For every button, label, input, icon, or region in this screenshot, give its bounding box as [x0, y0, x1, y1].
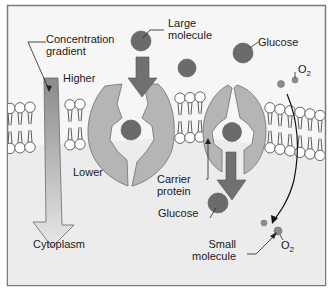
- label-lower: Lower: [73, 166, 103, 178]
- label-higher: Higher: [63, 72, 95, 84]
- label-glucose-bottom: Glucose: [158, 207, 198, 219]
- label-concentration-gradient: Concentration gradient: [46, 33, 115, 57]
- label-carrier-protein: Carrier protein: [157, 173, 191, 197]
- large-molecule-2: [178, 59, 196, 77]
- label-large-molecule: Large molecule: [168, 17, 212, 41]
- label-small-molecule: Small molecule: [192, 238, 236, 262]
- small-molecule-outside-1: [278, 81, 285, 88]
- o2-bottom-text: O: [281, 239, 290, 251]
- o2-top-text: O: [298, 63, 307, 75]
- label-glucose-top: Glucose: [258, 36, 298, 48]
- glucose-molecule-outside: [233, 43, 253, 63]
- small-molecule-inside-1: [261, 220, 267, 226]
- label-o2-bottom: O2: [281, 239, 294, 253]
- large-molecule: [131, 31, 151, 51]
- label-cytoplasm: Cytoplasm: [33, 238, 85, 250]
- glucose-molecule-inside: [208, 193, 228, 213]
- o2-top-subscript: 2: [307, 69, 311, 78]
- o2-bottom-subscript: 2: [290, 245, 294, 254]
- label-o2-top: O2: [298, 63, 311, 77]
